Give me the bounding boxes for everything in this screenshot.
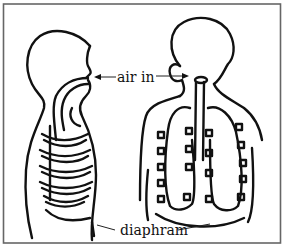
- breathing-diagram: air in diaphram: [0, 0, 283, 249]
- diagram-canvas: air in diaphram: [0, 0, 283, 249]
- diaphragm-label: diaphram: [120, 222, 188, 238]
- air-in-label: air in: [117, 69, 154, 85]
